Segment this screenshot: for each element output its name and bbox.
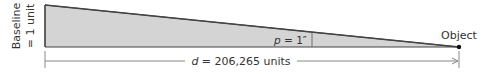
baseline-label: Baseline = 1 unit <box>10 2 37 49</box>
parallax-angle-label: p = 1″ <box>273 34 307 46</box>
object-point <box>457 45 461 49</box>
object-label: Object <box>441 29 478 42</box>
baseline-label-line2: = 1 unit <box>24 3 37 48</box>
distance-label: d = 206,265 units <box>191 55 290 68</box>
parallax-diagram: Baseline = 1 unit p = 1″ Object d = 206,… <box>0 0 487 74</box>
baseline-label-line1: Baseline <box>10 2 23 49</box>
